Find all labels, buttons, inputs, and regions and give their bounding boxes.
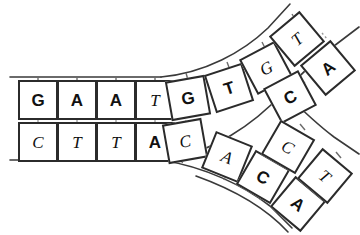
nucleotide-letter: T [72, 134, 81, 151]
nucleotide-letter: G [257, 58, 276, 79]
nucleotide-letter: C [281, 87, 300, 108]
nucleotide-box-parental-top-3: A [96, 80, 136, 120]
nucleotide-letter: A [149, 134, 161, 151]
nucleotide-letter: T [111, 134, 120, 151]
nucleotide-letter: T [316, 166, 334, 185]
nucleotide-letter: A [318, 58, 338, 79]
nucleotide-letter: A [219, 147, 235, 167]
nucleotide-box-parental-bottom-1: C [18, 122, 58, 162]
nucleotide-letter: G [180, 88, 196, 107]
nucleotide-box-parental-top-2: A [57, 80, 97, 120]
nucleotide-box-parental-bottom-2: T [57, 122, 97, 162]
stem-lo-2 [336, 152, 341, 158]
nucleotide-letter: C [279, 137, 297, 157]
nucleotide-letter: A [288, 194, 308, 215]
nucleotide-letter: A [71, 92, 83, 109]
nucleotide-box-parental-top-1: G [18, 80, 58, 120]
nucleotide-letter: T [221, 78, 236, 97]
nucleotide-letter: C [32, 134, 43, 151]
nucleotide-letter: G [31, 92, 44, 109]
nucleotide-letter: C [253, 167, 272, 188]
nucleotide-letter: T [288, 29, 306, 48]
dna-replication-fork-diagram: GAATCTTAGTGTCCAACACT [0, 0, 360, 235]
nucleotide-box-upper-outer-1: G [165, 75, 211, 121]
nucleotide-letter: A [110, 92, 122, 109]
nucleotide-box-upper-inner-1: C [162, 118, 208, 164]
nucleotide-box-parental-bottom-3: T [96, 122, 136, 162]
nucleotide-letter: C [178, 132, 192, 151]
nucleotide-letter: T [150, 92, 159, 109]
stem-lo-1 [300, 124, 305, 130]
